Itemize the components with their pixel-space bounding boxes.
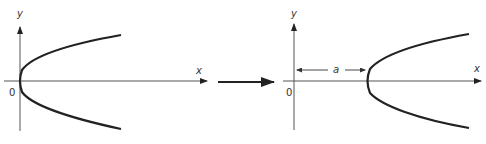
shift-label: a xyxy=(333,64,339,75)
left-x-label: x xyxy=(195,65,202,76)
diagram-canvas: y x 0 a y x 0 xyxy=(0,0,486,144)
right-y-label: y xyxy=(290,8,298,19)
right-x-label: x xyxy=(473,63,480,74)
right-panel: a y x 0 xyxy=(283,8,481,130)
left-panel: y x 0 xyxy=(4,8,220,131)
left-y-label: y xyxy=(16,8,24,19)
left-origin-label: 0 xyxy=(9,87,15,98)
right-origin-label: 0 xyxy=(286,87,292,98)
left-parabola xyxy=(20,35,121,129)
